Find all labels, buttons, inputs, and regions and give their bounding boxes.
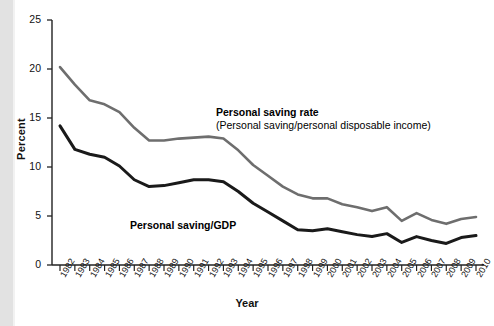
- y-axis-tick-label: 10: [19, 160, 41, 172]
- series-annotation-saving-gdp: Personal saving/GDP: [130, 219, 236, 232]
- chart-page: Percent Year Personal saving rate (Perso…: [0, 0, 494, 326]
- series-annotation-heading: Personal saving rate: [216, 106, 478, 119]
- series-line: [60, 126, 476, 244]
- chart-axes: [52, 20, 484, 265]
- x-axis-title: Year: [0, 297, 494, 309]
- y-axis-tick-label: 0: [19, 258, 41, 270]
- y-axis-ticks: [47, 20, 52, 265]
- y-axis-tick-label: 15: [19, 111, 41, 123]
- series-annotation-saving-rate: Personal saving rate (Personal saving/pe…: [216, 106, 478, 131]
- series-annotation-subtext: (Personal saving/personal disposable inc…: [216, 119, 478, 132]
- y-axis-tick-label: 25: [19, 13, 41, 25]
- series-line: [60, 67, 476, 224]
- y-axis-tick-label: 5: [19, 209, 41, 221]
- y-axis-tick-label: 20: [19, 62, 41, 74]
- chart-series-lines: [60, 67, 476, 243]
